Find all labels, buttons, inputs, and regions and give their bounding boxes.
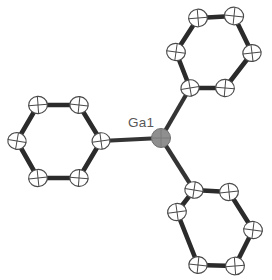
- molecular-structure-canvas: Ga1: [0, 0, 272, 280]
- atom-c8: [165, 42, 186, 62]
- atom-c2: [69, 96, 89, 115]
- atom-c16: [225, 257, 245, 276]
- atom-c4: [6, 131, 27, 151]
- atom-c5: [28, 168, 48, 187]
- atom-c3: [28, 96, 48, 114]
- ortep-figure: Ga1: [0, 0, 272, 280]
- atom-c10: [224, 6, 245, 26]
- atom-c14: [219, 182, 239, 201]
- atom-label-layer: Ga1: [128, 115, 154, 130]
- atom-c9: [188, 8, 208, 27]
- atom-c7: [180, 78, 201, 97]
- atom-c15: [243, 220, 264, 239]
- atom-ga1: [152, 129, 171, 148]
- atom-c1: [91, 132, 111, 151]
- label-ga1: Ga1: [128, 115, 154, 130]
- atom-c17: [188, 256, 208, 275]
- metal-bond-layer: [101, 88, 194, 190]
- atom-c6: [69, 169, 89, 187]
